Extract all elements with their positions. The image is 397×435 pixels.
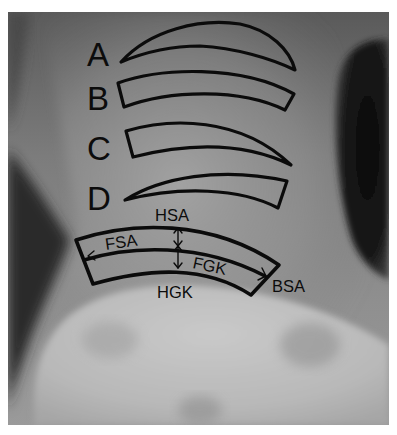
radiograph-figure: A B C D: [8, 12, 389, 425]
label-bsa: BSA: [272, 277, 305, 295]
label-hsa: HSA: [155, 206, 189, 224]
variant-d-label: D: [87, 180, 111, 217]
variant-a-label: A: [87, 36, 109, 73]
head-shadow-patch: [82, 322, 138, 358]
label-hgk: HGK: [157, 283, 193, 301]
variant-b-label: B: [87, 80, 109, 117]
radiograph-svg: A B C D: [8, 12, 389, 425]
head-shadow-patch: [178, 396, 222, 424]
head-shadow-patch: [280, 323, 340, 367]
variant-c-label: C: [87, 130, 111, 167]
